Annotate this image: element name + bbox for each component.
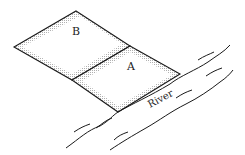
plot-b-label: B	[72, 25, 80, 38]
plot-a-label: A	[126, 60, 136, 73]
land-plots-diagram: B A River	[0, 0, 245, 155]
